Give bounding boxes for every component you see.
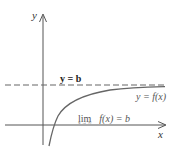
graph-canvas [0,0,174,150]
limit-expression: lim f(x) = b x → ∞ [78,108,130,126]
asymptote-label: y = b [60,74,81,84]
curve-label: y = f(x) [136,92,166,102]
x-axis-label: x [158,129,163,140]
y-axis-label: y [32,10,37,21]
limit-body: f(x) = b [99,113,130,124]
limit-subscript: x → ∞ [78,120,92,125]
